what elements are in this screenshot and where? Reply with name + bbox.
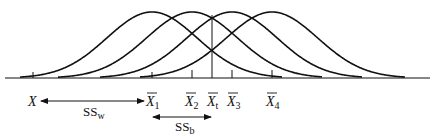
svg-text:X3: X3 xyxy=(226,94,241,111)
svg-text:X1: X1 xyxy=(145,94,160,111)
label-x3: X3 xyxy=(226,93,241,111)
label-ssb: SSb xyxy=(175,119,194,136)
label-x1: X1 xyxy=(145,93,160,111)
label-ssw: SSw xyxy=(83,104,105,121)
label-x2: X2 xyxy=(184,93,199,111)
svg-text:X4: X4 xyxy=(265,94,280,111)
label-x: X xyxy=(27,94,37,109)
anova-diagram: X X1 X2 Xt X3 X4 SSw SSb xyxy=(0,0,435,137)
svg-text:Xt: Xt xyxy=(206,94,219,111)
curve-group-2 xyxy=(58,12,322,77)
label-xt: Xt xyxy=(206,93,219,111)
label-x4: X4 xyxy=(265,93,280,111)
curve-group-1 xyxy=(20,12,282,77)
svg-text:X2: X2 xyxy=(184,94,199,111)
